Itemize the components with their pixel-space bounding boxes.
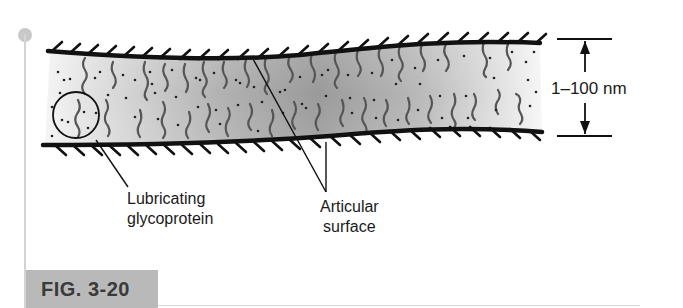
label-line: Lubricating bbox=[127, 189, 213, 209]
figure-number: FIG. 3-20 bbox=[41, 278, 130, 301]
label-lubricating-glycoprotein: Lubricating glycoprotein bbox=[127, 189, 213, 229]
label-dimension: 1–100 nm bbox=[551, 79, 627, 99]
lubrication-diagram bbox=[0, 0, 683, 308]
figure-canvas: Lubricating glycoprotein Articular surfa… bbox=[0, 0, 683, 308]
label-articular-surface: Articular surface bbox=[320, 197, 379, 237]
label-line: surface bbox=[320, 217, 379, 237]
label-line: Articular bbox=[320, 197, 379, 217]
figure-number-badge: FIG. 3-20 bbox=[26, 270, 158, 308]
label-line: glycoprotein bbox=[127, 209, 213, 229]
